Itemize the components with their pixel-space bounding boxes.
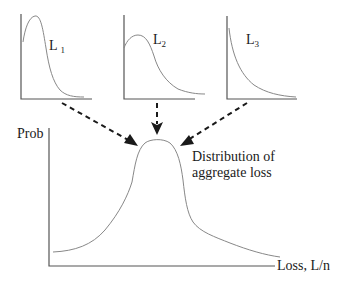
x-axis-label: Loss, L/n <box>277 259 330 273</box>
arrow-l2-to-aggregate <box>151 103 163 135</box>
plot-l1-label-sub: 1 <box>61 45 66 55</box>
plot-l3-label: L3 <box>246 33 259 49</box>
small-plot-l2 <box>124 15 205 99</box>
plot-l2-axes <box>124 15 195 99</box>
small-plot-l1 <box>21 14 92 99</box>
curve-label-line1: Distribution of <box>192 150 275 164</box>
plot-l2-label-sub: 2 <box>162 39 167 49</box>
plot-l3-axes <box>227 16 297 99</box>
plot-l3-label-sub: 3 <box>255 39 260 49</box>
plot-l1-curve <box>23 16 84 97</box>
plot-l1-axes <box>21 14 92 99</box>
arrow-l1-to-aggregate <box>62 103 138 146</box>
plot-l2-label: L2 <box>153 33 166 49</box>
plot-l1-label: L 1 <box>49 39 65 55</box>
plot-l3-curve <box>229 28 296 97</box>
y-axis-label: Prob <box>17 127 43 141</box>
plot-l1-label-main: L <box>49 38 57 53</box>
small-plot-l3 <box>227 16 297 99</box>
plot-l2-label-main: L <box>153 32 162 47</box>
arrow-l3-to-aggregate <box>180 103 247 146</box>
curve-label-line2: aggregate loss <box>192 166 272 180</box>
plot-l3-label-main: L <box>246 32 255 47</box>
